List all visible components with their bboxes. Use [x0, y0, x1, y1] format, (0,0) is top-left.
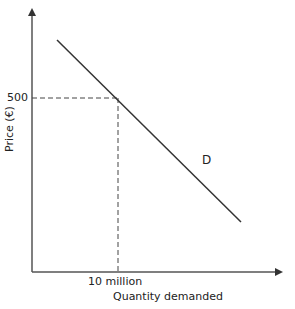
y-tick-label: 500 [7, 92, 28, 103]
chart-canvas [0, 0, 295, 309]
demand-chart: 500 10 million Quantity demanded Price (… [0, 0, 295, 309]
y-axis-label: Price (€) [4, 106, 15, 152]
x-axis-label: Quantity demanded [113, 291, 223, 302]
demand-curve-label: D [202, 154, 211, 166]
demand-curve [57, 40, 241, 222]
x-tick-label: 10 million [88, 276, 142, 287]
